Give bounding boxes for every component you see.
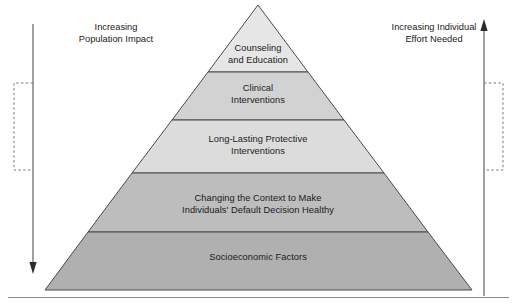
left-axis-label: Increasing Population Impact — [46, 22, 186, 45]
tier-2-shape — [172, 72, 344, 120]
pyramid-graphic — [0, 0, 517, 306]
right-axis-label: Increasing Individual Effort Needed — [368, 22, 500, 45]
left-dashed-bracket — [14, 83, 33, 170]
tier-4-shape — [88, 173, 428, 232]
right-dashed-bracket — [484, 83, 503, 170]
pyramid-diagram: Increasing Population Impact Increasing … — [0, 0, 517, 306]
left-arrow-head-down — [29, 262, 36, 274]
tier-5-shape — [45, 232, 472, 290]
tier-1-shape — [208, 5, 308, 72]
tier-3-shape — [132, 120, 384, 173]
